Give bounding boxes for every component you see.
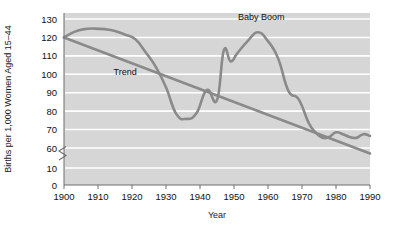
x-tick-label: 1920: [121, 191, 142, 202]
y-tick-label: 130: [41, 14, 57, 25]
chart-canvas: 1900191019201930194019501960197019801990…: [0, 0, 396, 233]
y-tick-label: 120: [41, 32, 57, 43]
y-tick-label: 60: [46, 143, 57, 154]
y-tick-label: 10: [46, 163, 57, 174]
x-tick-label: 1930: [155, 191, 176, 202]
x-tick-label: 1980: [325, 191, 346, 202]
x-tick-label: 1900: [53, 191, 74, 202]
x-tick-label: 1990: [359, 191, 380, 202]
x-tick-label: 1950: [223, 191, 244, 202]
y-tick-label: 110: [42, 50, 57, 61]
fertility-rate-chart-figure: 1900191019201930194019501960197019801990…: [0, 0, 396, 233]
y-tick-label: 0: [52, 180, 57, 191]
y-tick-label: 100: [41, 69, 57, 80]
y-tick-label: 90: [46, 87, 57, 98]
annotation-baby-boom: Baby Boom: [238, 12, 285, 22]
x-tick-label: 1940: [189, 191, 210, 202]
y-tick-label: 70: [46, 124, 57, 135]
y-axis-title: Births per 1,000 Women Aged 15–44: [3, 25, 13, 172]
x-tick-marks-group: [64, 185, 370, 189]
x-tick-label: 1960: [257, 191, 278, 202]
y-tick-labels-group: 01060708090100110120130: [41, 14, 57, 191]
x-tick-label: 1970: [291, 191, 312, 202]
x-tick-labels-group: 1900191019201930194019501960197019801990: [53, 191, 380, 202]
x-tick-label: 1910: [87, 191, 108, 202]
annotation-trend: Trend: [114, 67, 137, 77]
y-tick-label: 80: [46, 106, 57, 117]
x-axis-title: Year: [208, 210, 226, 220]
